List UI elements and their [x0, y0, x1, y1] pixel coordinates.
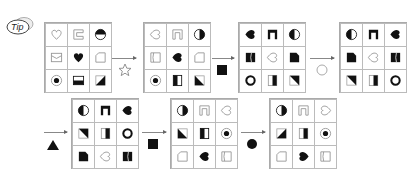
grid-cell [239, 23, 262, 47]
grid-cell [270, 99, 293, 123]
heart-right-outline-icon [319, 104, 332, 117]
grid-cell [362, 69, 385, 93]
grid-cell [94, 145, 117, 169]
dot-in-circle-icon [220, 127, 233, 140]
grid-cell [261, 69, 284, 93]
dot-in-circle-icon [319, 127, 332, 140]
grid-4 [339, 22, 407, 93]
arch-outline-icon [171, 28, 184, 41]
grid-cell [188, 69, 211, 93]
heart-left-outline-icon [266, 51, 279, 64]
grid-cell [171, 99, 194, 123]
grid-cell [292, 122, 315, 146]
grid-cell [384, 23, 407, 47]
grid-cell [193, 99, 216, 123]
square-fill-icon [146, 137, 160, 151]
grid-cell [116, 99, 139, 123]
triangle-tr-fill-icon [77, 127, 90, 140]
circle-left-fill-icon [345, 28, 358, 41]
circle-fill-icon [245, 137, 259, 151]
folded-corner-fill-icon [77, 150, 90, 163]
grid-cell [384, 69, 407, 93]
cut-rect-outline-icon [220, 150, 233, 163]
grid-cell [188, 46, 211, 70]
rect-bottom-fill-icon [72, 74, 85, 87]
arch-outline-icon [198, 104, 211, 117]
arrow-6 [241, 132, 265, 133]
grid-cell [193, 122, 216, 146]
rect-right-fill-icon [99, 127, 112, 140]
grid-cell [89, 23, 112, 47]
ring-bold-icon [244, 74, 257, 87]
heart-left-fill-icon [171, 51, 184, 64]
ring-bold-icon [389, 74, 402, 87]
grid-cell [283, 69, 306, 93]
grid-cell [314, 122, 337, 146]
grid-cell [67, 69, 90, 93]
grid-cell [283, 23, 306, 47]
arch-fill-icon [266, 28, 279, 41]
triangle-tr-fill-icon [345, 74, 358, 87]
grid-6 [170, 98, 238, 169]
arrow-2 [212, 58, 234, 59]
grid-cell [89, 69, 112, 93]
grid-cell [171, 145, 194, 169]
rect-right-fill-icon [266, 74, 279, 87]
grid-cell [45, 23, 68, 47]
triangle-tr-fill-icon [288, 74, 301, 87]
grid-cell [166, 69, 189, 93]
grid-cell [292, 145, 315, 169]
grid-cell [166, 46, 189, 70]
grid-5 [71, 98, 139, 169]
grid-cell [116, 122, 139, 146]
grid-cell [67, 23, 90, 47]
tip-label: Tip [11, 22, 23, 32]
triangle-br-fill-icon [94, 74, 107, 87]
heart-left-fill-icon [198, 150, 211, 163]
grid-cell [72, 145, 95, 169]
grid-cell [144, 69, 167, 93]
triangle-bl-fill-icon [193, 74, 206, 87]
ring-bold-icon [121, 127, 134, 140]
grid-cell [144, 46, 167, 70]
circle-right-fill-icon [176, 104, 189, 117]
square-fill-icon [215, 63, 229, 77]
grid-cell [239, 69, 262, 93]
circle-left-fill-icon [288, 28, 301, 41]
grid-cell [89, 46, 112, 70]
rect-right-fill-icon [367, 74, 380, 87]
triangle-br-fill-icon [275, 127, 288, 140]
grid-cell [261, 46, 284, 70]
grid-7 [269, 98, 337, 169]
arch-outline-icon [297, 104, 310, 117]
grid-cell [45, 46, 68, 70]
rect-left-fill-icon [198, 127, 211, 140]
grid-cell [314, 99, 337, 123]
envelope-outline-icon [50, 51, 63, 64]
tip-badge-icon: Tip [5, 16, 35, 36]
arch-fill-icon [99, 104, 112, 117]
folded-corner-outline-icon [193, 51, 206, 64]
grid-cell [45, 69, 68, 93]
triangle-fill-icon [46, 138, 60, 152]
semicircle-top-fill-icon [94, 28, 107, 41]
cut-rect-fill-icon [244, 51, 257, 64]
arrow-1 [112, 58, 136, 59]
grid-cell [340, 23, 363, 47]
grid-cell [193, 145, 216, 169]
folded-corner-fill-icon [288, 51, 301, 64]
heart-left-fill-icon [244, 28, 257, 41]
grid-3 [238, 22, 306, 93]
grid-cell [72, 122, 95, 146]
arch-fill-icon [367, 28, 380, 41]
folded-corner-outline-icon [176, 150, 189, 163]
arrow-4 [44, 132, 67, 133]
grid-cell [362, 46, 385, 70]
heart-left-outline-icon [149, 28, 162, 41]
dot-in-circle-icon [149, 74, 162, 87]
grid-cell [215, 122, 238, 146]
grid-cell [362, 23, 385, 47]
grid-cell [270, 145, 293, 169]
heart-left-fill-icon [121, 104, 134, 117]
grid-cell [314, 145, 337, 169]
